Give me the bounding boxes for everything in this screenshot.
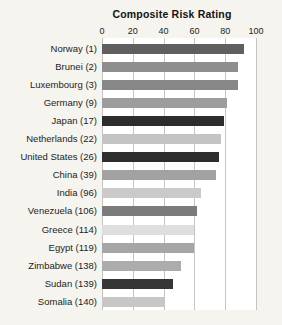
table-row: Somalia (140) [0,297,282,307]
category-label: Egypt (119) [49,242,97,253]
bar [102,261,181,271]
bar [102,188,201,198]
bar [102,116,224,126]
category-label: Netherlands (22) [26,133,97,144]
axis-tick-label-60: 60 [179,26,209,36]
category-label: Norway (1) [51,43,97,54]
bar [102,279,173,289]
axis-tick-label-40: 40 [149,26,179,36]
bar [102,225,194,235]
category-label: Zimbabwe (138) [28,260,97,271]
table-row: Brunei (2) [0,62,282,72]
table-row: Japan (17) [0,116,282,126]
category-label: Somalia (140) [38,296,97,307]
table-row: India (96) [0,188,282,198]
table-row: Luxembourg (3) [0,80,282,90]
category-label: Sudan (139) [45,278,97,289]
table-row: Egypt (119) [0,243,282,253]
bar [102,80,238,90]
table-row: Germany (9) [0,98,282,108]
table-row: United States (26) [0,152,282,162]
axis-tick-label-0: 0 [87,26,117,36]
bar [102,170,216,180]
category-label: Luxembourg (3) [30,79,97,90]
table-row: Sudan (139) [0,279,282,289]
bar [102,297,164,307]
category-label: Brunei (2) [55,61,97,72]
category-label: Japan (17) [52,115,97,126]
bar [102,243,194,253]
bar [102,206,197,216]
axis-tick-label-20: 20 [118,26,148,36]
bar [102,62,238,72]
category-label: United States (26) [20,151,97,162]
table-row: Greece (114) [0,225,282,235]
bar [102,152,219,162]
category-label: Venezuela (106) [28,206,97,217]
bar [102,134,221,144]
axis-tick-label-100: 100 [241,26,271,36]
table-row: Venezuela (106) [0,206,282,216]
table-row: Norway (1) [0,44,282,54]
category-label: Germany (9) [44,97,97,108]
bar [102,44,244,54]
category-label: China (39) [53,169,97,180]
table-row: China (39) [0,170,282,180]
figure-composite-risk-rating: Composite Risk Rating 020406080100 Norwa… [0,0,282,325]
axis-tick-label-80: 80 [210,26,240,36]
bar [102,98,227,108]
category-label: Greece (114) [42,224,97,235]
category-label: India (96) [57,188,97,199]
table-row: Netherlands (22) [0,134,282,144]
table-row: Zimbabwe (138) [0,261,282,271]
chart-title: Composite Risk Rating [82,8,262,20]
